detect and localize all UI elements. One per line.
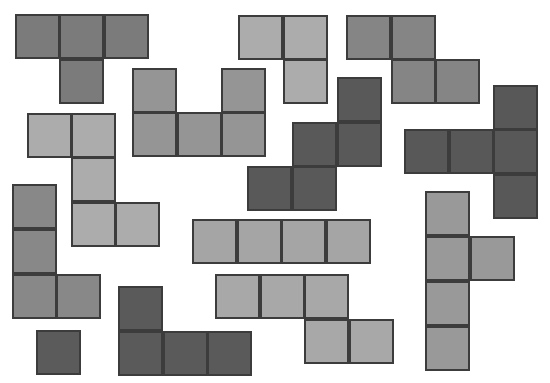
piece-cell: [260, 274, 305, 319]
piece-cell: [391, 15, 436, 60]
piece-cell: [192, 219, 237, 264]
piece-cell: [221, 68, 266, 113]
piece-cell: [292, 166, 337, 211]
piece-cell: [71, 113, 116, 158]
piece-cell: [221, 112, 266, 157]
piece-cell: [470, 236, 515, 281]
piece-cell: [493, 174, 538, 219]
piece-cell: [337, 122, 382, 167]
piece-cell: [163, 331, 208, 376]
piece-cell: [237, 219, 282, 264]
piece-cell: [247, 166, 292, 211]
piece-cell: [104, 14, 149, 59]
piece-cell: [425, 236, 470, 281]
piece-cell: [118, 286, 163, 331]
piece-cell: [71, 202, 116, 247]
piece-cell: [425, 281, 470, 326]
piece-cell: [207, 331, 252, 376]
piece-cell: [292, 122, 337, 167]
piece-cell: [449, 129, 494, 174]
piece-cell: [15, 14, 60, 59]
piece-cell: [27, 113, 72, 158]
piece-cell: [283, 15, 328, 60]
piece-cell: [349, 319, 394, 364]
piece-cell: [304, 274, 349, 319]
piece-cell: [118, 331, 163, 376]
piece-cell: [12, 274, 57, 319]
piece-cell: [59, 14, 104, 59]
piece-cell: [493, 129, 538, 174]
piece-cell: [12, 229, 57, 274]
piece-cell: [337, 77, 382, 122]
piece-cell: [71, 157, 116, 202]
piece-cell: [435, 59, 480, 104]
piece-cell: [391, 59, 436, 104]
piece-cell: [177, 112, 222, 157]
piece-cell: [238, 15, 283, 60]
piece-cell: [493, 85, 538, 130]
piece-cell: [304, 319, 349, 364]
piece-cell: [59, 59, 104, 104]
piece-cell: [326, 219, 371, 264]
piece-cell: [283, 59, 328, 104]
piece-cell: [132, 112, 177, 157]
piece-cell: [425, 326, 470, 371]
polyomino-board: [0, 0, 550, 383]
piece-cell: [425, 191, 470, 236]
piece-cell: [132, 68, 177, 113]
piece-cell: [215, 274, 260, 319]
piece-cell: [281, 219, 326, 264]
piece-cell: [404, 129, 449, 174]
piece-cell: [115, 202, 160, 247]
piece-cell: [12, 184, 57, 229]
piece-cell: [56, 274, 101, 319]
piece-cell: [36, 330, 81, 375]
piece-cell: [346, 15, 391, 60]
